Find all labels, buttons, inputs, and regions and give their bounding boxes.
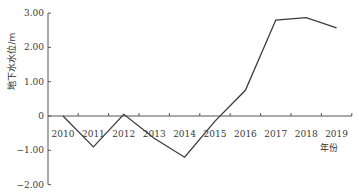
x-axis: 2010201120122013201420152016201720182019 bbox=[48, 113, 352, 139]
y-axis: 3.002.001.000−1.00−2.00 bbox=[16, 8, 51, 190]
y-tick-label: 2.00 bbox=[24, 42, 44, 52]
x-tick-label: 2014 bbox=[173, 129, 196, 139]
x-tick-label: 2018 bbox=[295, 129, 318, 139]
x-tick-label: 2016 bbox=[234, 129, 257, 139]
groundwater-level-chart: 3.002.001.000−1.00−2.00 2010201120122013… bbox=[0, 0, 359, 196]
y-tick-label: 3.00 bbox=[24, 8, 44, 18]
x-axis-title: 年份 bbox=[320, 142, 338, 153]
x-tick-label: 2012 bbox=[112, 129, 135, 139]
x-tick-label: 2010 bbox=[52, 129, 75, 139]
y-tick-label: −1.00 bbox=[16, 145, 44, 155]
y-tick-label: 0 bbox=[38, 111, 44, 121]
x-tick-label: 2013 bbox=[143, 129, 166, 139]
x-tick-label: 2019 bbox=[325, 129, 348, 139]
y-axis-title: 地下水水位/m bbox=[6, 33, 17, 90]
y-tick-label: −2.00 bbox=[16, 180, 44, 190]
x-tick-label: 2017 bbox=[264, 129, 287, 139]
y-tick-label: 1.00 bbox=[24, 77, 44, 87]
